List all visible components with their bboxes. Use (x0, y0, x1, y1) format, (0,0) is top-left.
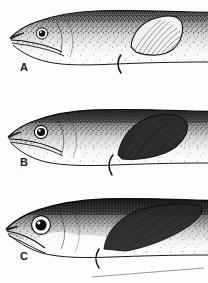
figure-panel-c: C (0, 189, 208, 283)
illustration-plate: A (0, 0, 208, 283)
fish-illustration-b (0, 93, 208, 188)
panel-label-a: A (20, 62, 28, 73)
eye-c (32, 216, 51, 235)
ventral-edge-line-c (92, 268, 204, 277)
fish-body-shading-c (0, 189, 208, 283)
eye-b (34, 125, 47, 138)
fish-illustration-a (0, 0, 208, 92)
panel-label-b: B (20, 157, 28, 168)
panel-label-c: C (20, 251, 28, 262)
fish-illustration-c (0, 189, 208, 283)
figure-panel-b: B (0, 93, 208, 188)
eye-a (36, 28, 47, 39)
figure-panel-a: A (0, 0, 208, 92)
